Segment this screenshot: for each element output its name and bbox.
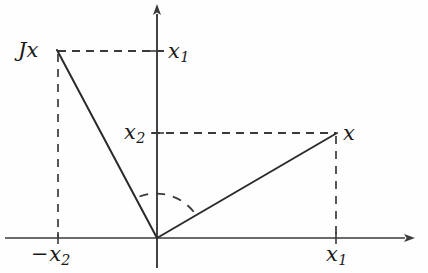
label-y-tick-x1: x1	[168, 41, 189, 65]
label-x-point: x	[343, 123, 355, 144]
segment-origin-to-x	[157, 133, 337, 238]
angle-arc	[140, 194, 197, 215]
label-y-tick-x2: x2	[124, 122, 145, 146]
label-jx-point: Jx	[18, 40, 38, 61]
label-x-tick-minus-x2: −x2	[31, 244, 70, 268]
diagram-canvas	[0, 0, 428, 273]
figure-container: Jx x1 x2 x −x2 x1	[0, 0, 428, 273]
label-x-tick-x1: x1	[326, 244, 347, 268]
